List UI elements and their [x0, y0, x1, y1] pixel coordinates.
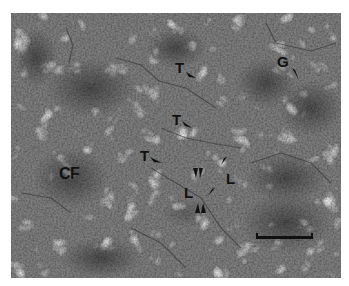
arrowhead-icon	[150, 157, 162, 163]
arrowhead-icon	[193, 168, 198, 178]
arrowhead-icon	[199, 168, 203, 178]
arrowhead-icon	[186, 72, 196, 78]
scale-bar	[256, 236, 313, 239]
arrowhead-icon	[208, 188, 215, 196]
arrowhead-icon	[182, 121, 192, 128]
arrowhead-icon	[221, 157, 227, 165]
arrowhead-icon	[292, 68, 299, 80]
arrowhead-icon	[195, 203, 200, 213]
arrowhead-icon	[201, 203, 206, 213]
arrowhead-overlay	[0, 0, 349, 286]
